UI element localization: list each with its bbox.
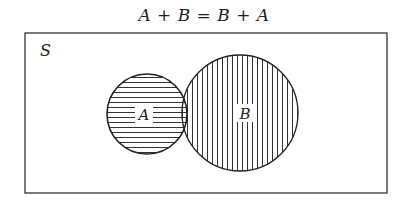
venn-diagram: S A B	[0, 0, 408, 202]
set-a-label: A	[137, 106, 150, 124]
universe-label: S	[40, 41, 51, 60]
set-b-label: B	[238, 105, 250, 123]
